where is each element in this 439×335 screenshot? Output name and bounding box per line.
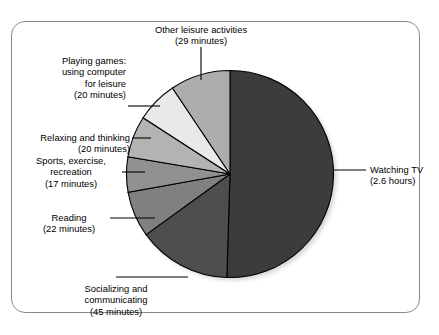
label-socializing-line2: communicating bbox=[58, 294, 174, 305]
label-socializing-line1: Socializing and bbox=[58, 283, 174, 294]
label-reading-line2: (22 minutes) bbox=[30, 223, 108, 234]
pie-chart-figure: Leisure time on an average day (hours pe… bbox=[0, 0, 439, 335]
label-relaxing-line1: Relaxing and thinking bbox=[16, 132, 130, 143]
label-playing-games-line1: Playing games: bbox=[26, 55, 126, 66]
label-playing-games-line4: (20 minutes) bbox=[26, 89, 126, 100]
label-sports: Sports, exercise, recreation (17 minutes… bbox=[22, 155, 120, 189]
label-other-leisure-line2: (29 minutes) bbox=[131, 35, 271, 46]
label-socializing: Socializing and communicating (45 minute… bbox=[58, 283, 174, 317]
label-watching-tv-line1: Watching TV bbox=[370, 164, 439, 175]
label-sports-line2: recreation bbox=[22, 166, 120, 177]
label-other-leisure-line1: Other leisure activities bbox=[131, 24, 271, 35]
label-other-leisure: Other leisure activities (29 minutes) bbox=[131, 24, 271, 47]
label-watching-tv-line2: (2.6 hours) bbox=[370, 175, 439, 186]
label-socializing-line3: (45 minutes) bbox=[58, 306, 174, 317]
label-reading-line1: Reading bbox=[30, 212, 108, 223]
label-watching-tv: Watching TV (2.6 hours) bbox=[370, 164, 439, 187]
label-sports-line3: (17 minutes) bbox=[22, 178, 120, 189]
label-reading: Reading (22 minutes) bbox=[30, 212, 108, 235]
label-relaxing-line2: (20 minutes) bbox=[16, 143, 130, 154]
label-sports-line1: Sports, exercise, bbox=[22, 155, 120, 166]
pie-slice-watching-tv[interactable] bbox=[227, 70, 334, 277]
label-playing-games-line3: for leisure bbox=[26, 78, 126, 89]
label-relaxing: Relaxing and thinking (20 minutes) bbox=[16, 132, 130, 155]
label-playing-games-line2: using computer bbox=[26, 66, 126, 77]
label-playing-games: Playing games: using computer for leisur… bbox=[26, 55, 126, 101]
